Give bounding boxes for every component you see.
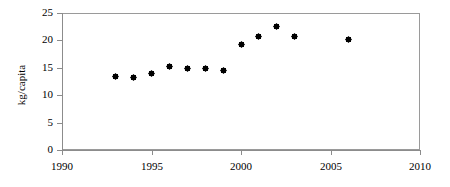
- diamond-marker-core: [203, 66, 208, 71]
- data-point: [345, 36, 352, 43]
- scatter-chart: kg/capita 0510152025 1990199520002005201…: [0, 0, 450, 187]
- data-point: [220, 67, 227, 74]
- y-axis-tick: [57, 123, 62, 124]
- diamond-marker-core: [185, 66, 190, 71]
- data-point: [112, 73, 119, 80]
- diamond-marker-core: [346, 37, 351, 42]
- data-point: [202, 65, 209, 72]
- x-axis-tick: [420, 150, 421, 155]
- diamond-marker-core: [221, 68, 226, 73]
- diamond-marker-core: [239, 42, 244, 47]
- y-axis-tick-label: 5: [30, 117, 53, 128]
- x-axis-tick-label: 2000: [218, 160, 264, 172]
- x-axis-tick-label: 1990: [39, 160, 85, 172]
- diamond-marker-core: [167, 64, 172, 69]
- x-axis-tick-label: 1995: [129, 160, 175, 172]
- y-axis-tick-label: 25: [30, 7, 53, 18]
- x-axis-tick-label: 2005: [308, 160, 354, 172]
- y-axis-tick-label: 15: [30, 62, 53, 73]
- data-point: [166, 63, 173, 70]
- diamond-marker-core: [256, 34, 261, 39]
- x-axis-tick: [62, 150, 63, 155]
- data-point: [184, 65, 191, 72]
- y-axis-tick: [57, 68, 62, 69]
- data-point: [148, 70, 155, 77]
- x-axis-tick: [241, 150, 242, 155]
- x-axis-tick: [152, 150, 153, 155]
- diamond-marker-core: [274, 24, 279, 29]
- y-axis-title-text: kg/capita: [14, 50, 28, 120]
- diamond-marker-core: [149, 71, 154, 76]
- data-point: [255, 33, 262, 40]
- y-axis-tick: [57, 40, 62, 41]
- diamond-marker-core: [113, 74, 118, 79]
- y-axis-tick-label: 10: [30, 89, 53, 100]
- y-axis-tick: [57, 95, 62, 96]
- data-point: [130, 74, 137, 81]
- x-axis-tick-label: 2010: [397, 160, 443, 172]
- diamond-marker-core: [131, 75, 136, 80]
- data-point: [238, 41, 245, 48]
- x-axis-tick: [331, 150, 332, 155]
- data-point: [273, 23, 280, 30]
- diamond-marker-core: [292, 34, 297, 39]
- y-axis-tick-label: 20: [30, 34, 53, 45]
- y-axis-title: kg/capita: [14, 50, 28, 120]
- plot-area: [62, 13, 420, 150]
- y-axis-line: [62, 13, 63, 151]
- data-point: [291, 33, 298, 40]
- y-axis-tick: [57, 13, 62, 14]
- y-axis-tick-label: 0: [30, 144, 53, 155]
